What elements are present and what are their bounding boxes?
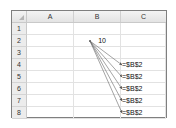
cell-a8[interactable] <box>27 107 74 119</box>
cell-a3[interactable] <box>27 47 74 59</box>
cell-a7[interactable] <box>27 95 74 107</box>
cell-c1[interactable] <box>121 23 166 35</box>
cell-b5[interactable] <box>74 71 121 83</box>
cell-c6[interactable]: =$B$2 <box>121 83 166 95</box>
column-header-b[interactable]: B <box>74 11 121 22</box>
row-header-3[interactable]: 3 <box>12 47 27 59</box>
row-header-4[interactable]: 4 <box>12 59 27 71</box>
cell-a2[interactable] <box>27 35 74 47</box>
cell-b1[interactable] <box>74 23 121 35</box>
cell-c8[interactable]: =$B$2 <box>121 107 166 119</box>
cell-a5[interactable] <box>27 71 74 83</box>
cell-a6[interactable] <box>27 83 74 95</box>
cell-b4[interactable] <box>74 59 121 71</box>
cell-c5[interactable]: =$B$2 <box>121 71 166 83</box>
row-header-8[interactable]: 8 <box>12 107 27 119</box>
cell-b2[interactable]: 10 <box>74 35 121 47</box>
row-header-1[interactable]: 1 <box>12 23 27 35</box>
row-header-7[interactable]: 7 <box>12 95 27 107</box>
cell-a4[interactable] <box>27 59 74 71</box>
cell-c3[interactable] <box>121 47 166 59</box>
cell-c2[interactable] <box>121 35 166 47</box>
row-header-6[interactable]: 6 <box>12 83 27 95</box>
row-header-2[interactable]: 2 <box>12 35 27 47</box>
spreadsheet-grid: A B C 1 2 3 4 5 6 7 8 10 =$B$2 =$B$2 =$B… <box>11 10 167 118</box>
cell-b7[interactable] <box>74 95 121 107</box>
column-header-c[interactable]: C <box>121 11 166 22</box>
select-all-corner[interactable] <box>12 11 27 22</box>
row-header-5[interactable]: 5 <box>12 71 27 83</box>
cell-b6[interactable] <box>74 83 121 95</box>
column-header-row: A B C <box>12 11 166 23</box>
column-header-a[interactable]: A <box>27 11 74 22</box>
cell-b8[interactable] <box>74 107 121 119</box>
cell-c7[interactable]: =$B$2 <box>121 95 166 107</box>
cell-a1[interactable] <box>27 23 74 35</box>
cell-c4[interactable]: =$B$2 <box>121 59 166 71</box>
cell-b3[interactable] <box>74 47 121 59</box>
